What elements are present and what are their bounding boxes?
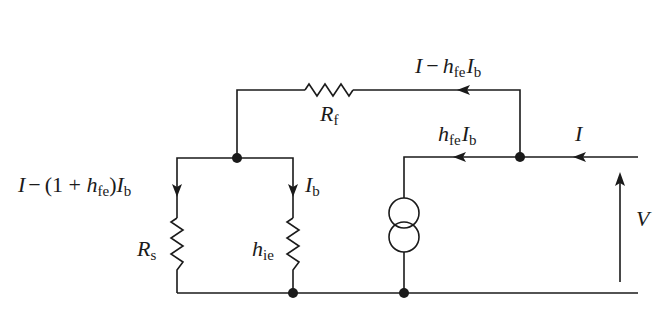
dependent-current-source	[389, 152, 520, 293]
label-feedback-current: I−hfeIb	[414, 53, 481, 80]
node-right-top	[515, 152, 525, 162]
left-branches	[171, 153, 299, 293]
circuit-diagram: Rf I−hfeIb hfeIb I V I−(1 + hfe)Ib Ib Rs…	[0, 0, 667, 318]
source-resistor-rs	[171, 218, 183, 293]
label-hie: hie	[252, 236, 274, 263]
input-terminal	[515, 152, 638, 162]
label-input-current: I	[574, 121, 584, 146]
feedback-path	[237, 84, 520, 157]
node-bottom-hie	[288, 288, 298, 298]
label-voltage: V	[636, 206, 652, 231]
voltage-indicator	[615, 172, 625, 282]
feedback-resistor-rf	[305, 84, 353, 96]
node-bottom-source	[399, 288, 409, 298]
input-resistance-hie	[287, 218, 299, 293]
label-rs: Rs	[136, 236, 156, 263]
label-source-branch-current: I−(1 + hfe)Ib	[17, 172, 131, 199]
ground-rail	[177, 288, 638, 298]
label-controlled-current: hfeIb	[438, 121, 476, 148]
label-base-current: Ib	[304, 172, 320, 199]
label-rf: Rf	[319, 101, 338, 128]
node-left-top	[232, 153, 242, 163]
